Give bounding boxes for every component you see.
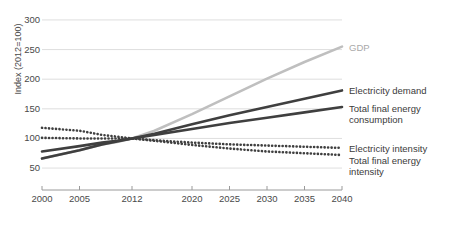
y-tick-150: 150 [6,104,40,114]
y-tick-250: 250 [6,45,40,55]
inline-label-total-final-energy-consumption: Total final energy consumption [349,103,421,125]
y-tick-50: 50 [6,163,40,173]
x-tick-2040: 2040 [331,194,352,204]
inline-label-gdp: GDP [349,42,370,53]
y-tick-200: 200 [6,74,40,84]
y-tick-300: 300 [6,15,40,25]
x-axis [42,186,342,190]
inline-label-electricity-intensity: Electricity intensity [349,143,427,154]
plot-area [42,14,342,174]
x-tick-2035: 2035 [294,194,315,204]
x-tick-2025: 2025 [219,194,240,204]
line-chart: Index (2012=100) 50100150200250300 20002… [0,0,451,225]
x-tick-2020: 2020 [181,194,202,204]
y-axis-tick-labels: 50100150200250300 [0,0,40,225]
x-tick-2030: 2030 [256,194,277,204]
inline-label-total-final-energy-intensity: Total final energy intensity [349,155,421,177]
plot-svg [42,14,342,174]
x-tick-2000: 2000 [31,194,52,204]
series-lines [42,47,342,159]
x-tick-2005: 2005 [69,194,90,204]
y-tick-100: 100 [6,133,40,143]
inline-label-electricity-demand: Electricity demand [349,85,427,96]
x-tick-2012: 2012 [121,194,142,204]
